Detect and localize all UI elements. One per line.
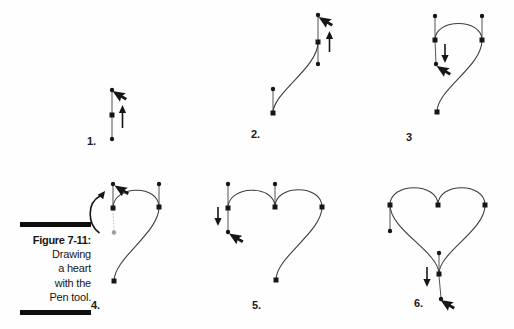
path-segment — [228, 190, 275, 208]
step-3-drawing — [433, 14, 485, 115]
book-figure-page: 1. 2. 3 4. 5. 6. Figure 7-11: Drawing a … — [0, 0, 514, 329]
direction-point — [433, 14, 437, 18]
caption-bottom-rule — [20, 310, 91, 315]
anchor-point — [111, 206, 116, 211]
anchor-point — [316, 40, 321, 45]
anchor-point — [435, 110, 440, 115]
arrow-cursor-icon — [441, 294, 458, 312]
anchor-point — [274, 278, 279, 283]
arrow-cursor-icon — [229, 228, 246, 246]
step-6-label: 6. — [414, 297, 423, 309]
figure-caption-text: Drawing — [20, 247, 91, 261]
arrow-cursor-icon — [319, 11, 336, 29]
step-5-drawing — [214, 182, 324, 283]
path-segment — [114, 207, 159, 281]
direction-point — [226, 230, 230, 234]
anchor-point — [112, 279, 117, 284]
drag-down-arrow-icon — [423, 267, 430, 287]
path-segment — [273, 42, 318, 113]
anchor-point — [273, 205, 278, 210]
direction-point — [110, 137, 114, 141]
path-segment — [390, 188, 438, 205]
rotate-direction-arrow-icon — [90, 189, 108, 233]
direction-point — [271, 87, 275, 91]
anchor-point — [110, 113, 115, 118]
anchor-point — [480, 38, 485, 43]
anchor-point — [388, 203, 393, 208]
step-1-label: 1. — [87, 135, 96, 147]
direction-point — [273, 182, 277, 186]
figure-caption-text: with the — [20, 276, 91, 290]
path-segment — [435, 24, 482, 41]
direction-point — [480, 14, 484, 18]
drag-up-arrow-icon — [119, 105, 126, 128]
step-4-drawing — [90, 180, 161, 284]
arrow-cursor-icon — [115, 180, 132, 198]
arrow-cursor-icon — [113, 85, 130, 103]
path-segment — [390, 205, 439, 274]
step-3-label: 3 — [406, 131, 412, 143]
anchor-point — [483, 203, 488, 208]
step-2-label: 2. — [251, 128, 260, 140]
figure-caption-text: Pen tool. — [20, 290, 91, 304]
caption-top-rule — [20, 222, 91, 227]
ghost-direction-point — [112, 230, 116, 234]
direction-point — [226, 182, 230, 186]
figure-caption-text: a heart — [20, 261, 91, 275]
direction-point — [316, 13, 320, 17]
path-segment — [276, 207, 322, 280]
step-5-label: 5. — [252, 299, 261, 311]
arrow-cursor-icon — [437, 60, 454, 78]
anchor-point — [433, 38, 438, 43]
direction-point — [157, 182, 161, 186]
step-4-label: 4. — [91, 299, 100, 311]
anchor-point — [436, 203, 441, 208]
anchor-point — [271, 111, 276, 116]
figure-caption-number: Figure 7-11: — [20, 233, 91, 247]
path-segment — [275, 190, 322, 207]
direction-point — [316, 62, 320, 66]
drag-down-arrow-icon — [441, 44, 448, 63]
drag-up-arrow-icon — [326, 31, 333, 52]
direction-point — [434, 62, 438, 66]
step-1-drawing — [110, 85, 130, 141]
direction-point — [388, 229, 392, 233]
anchor-point — [437, 272, 442, 277]
path-segment — [438, 188, 485, 205]
figure-caption: Figure 7-11: Drawing a heart with the Pe… — [20, 222, 91, 315]
anchor-point — [320, 205, 325, 210]
anchor-point — [226, 206, 231, 211]
direction-point — [437, 251, 441, 255]
direction-line — [439, 276, 441, 298]
previous-direction-line — [113, 210, 114, 231]
drag-down-arrow-icon — [214, 207, 221, 226]
path-segment — [439, 205, 485, 274]
direction-line — [435, 40, 436, 64]
step-2-drawing — [271, 11, 336, 115]
anchor-point — [157, 205, 162, 210]
step-6-drawing — [388, 188, 488, 313]
